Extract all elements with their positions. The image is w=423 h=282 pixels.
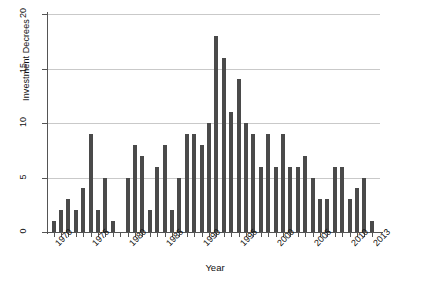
y-tick-label-5: 5 <box>18 162 28 192</box>
bar-2010 <box>348 199 352 232</box>
bar-2000 <box>274 167 278 232</box>
x-tick-mark-1979 <box>120 233 121 237</box>
x-tick-mark-1989 <box>194 233 195 237</box>
bar-1985 <box>163 145 167 232</box>
bar-2013 <box>370 221 374 232</box>
bar-2006 <box>318 199 322 232</box>
bar-1995 <box>237 79 241 232</box>
x-tick-mark-1975 <box>91 233 92 237</box>
bar-1991 <box>207 123 211 232</box>
x-tick-mark-1984 <box>157 233 158 237</box>
bar-1988 <box>185 134 189 232</box>
bar-1976 <box>96 210 100 232</box>
x-tick-mark-1995 <box>239 233 240 237</box>
bar-1992 <box>214 36 218 232</box>
bar-1990 <box>200 145 204 232</box>
bar-2011 <box>355 188 359 232</box>
bar-1975 <box>89 134 93 232</box>
bar-2008 <box>333 167 337 232</box>
bar-1970 <box>52 221 56 232</box>
bar-2003 <box>296 167 300 232</box>
bar-1993 <box>222 58 226 232</box>
x-tick-mark-1980 <box>128 233 129 237</box>
x-tick-mark-1999 <box>268 233 269 237</box>
x-tick-mark-1973 <box>76 233 77 237</box>
x-tick-mark-1970 <box>54 233 55 237</box>
x-tick-mark-1988 <box>187 233 188 237</box>
x-tick-mark-1994 <box>231 233 232 237</box>
x-tick-mark-1974 <box>83 233 84 237</box>
y-tick-mark-5 <box>42 178 48 179</box>
bar-1989 <box>192 134 196 232</box>
bar-1999 <box>266 134 270 232</box>
y-tick-label-15: 15 <box>18 53 28 83</box>
x-tick-mark-1993 <box>224 233 225 237</box>
y-tick-mark-20 <box>42 14 48 15</box>
bar-2004 <box>303 156 307 232</box>
x-tick-mark-1978 <box>113 233 114 237</box>
investment-decrees-bar-chart: Investment Decrees 197019751980198519901… <box>0 0 423 282</box>
bar-1983 <box>148 210 152 232</box>
y-tick-label-20: 20 <box>18 0 28 28</box>
bar-1986 <box>170 210 174 232</box>
bar-1980 <box>126 178 130 233</box>
x-tick-mark-2008 <box>335 233 336 237</box>
x-tick-mark-1998 <box>261 233 262 237</box>
bar-2009 <box>340 167 344 232</box>
bar-2005 <box>311 178 315 233</box>
x-tick-mark-1990 <box>202 233 203 237</box>
y-tick-mark-10 <box>42 123 48 124</box>
bar-1973 <box>74 210 78 232</box>
x-tick-mark-2013 <box>372 233 373 237</box>
bar-1982 <box>140 156 144 232</box>
x-tick-mark-2005 <box>313 233 314 237</box>
y-tick-mark-0 <box>42 232 48 233</box>
bar-1997 <box>251 134 255 232</box>
x-tick-mark-2004 <box>305 233 306 237</box>
y-tick-label-0: 0 <box>18 216 28 246</box>
bar-1974 <box>81 188 85 232</box>
bar-2002 <box>288 167 292 232</box>
bar-2001 <box>281 134 285 232</box>
x-tick-mark-1983 <box>150 233 151 237</box>
x-axis-title: Year <box>47 262 383 273</box>
y-tick-mark-15 <box>42 69 48 70</box>
x-tick-mark-2000 <box>276 233 277 237</box>
x-tick-mark-2009 <box>342 233 343 237</box>
plot-area <box>47 14 380 232</box>
x-tick-mark-2010 <box>350 233 351 237</box>
bar-1994 <box>229 112 233 232</box>
x-tick-mark-2003 <box>298 233 299 237</box>
bar-1977 <box>103 178 107 233</box>
x-tick-mark-1985 <box>165 233 166 237</box>
bar-1971 <box>59 210 63 232</box>
bar-1996 <box>244 123 248 232</box>
bar-1998 <box>259 167 263 232</box>
bar-2012 <box>362 178 366 233</box>
bar-1978 <box>111 221 115 232</box>
bar-1981 <box>133 145 137 232</box>
y-tick-label-10: 10 <box>18 107 28 137</box>
bar-1984 <box>155 167 159 232</box>
bar-1987 <box>177 178 181 233</box>
bars-layer <box>47 14 380 232</box>
